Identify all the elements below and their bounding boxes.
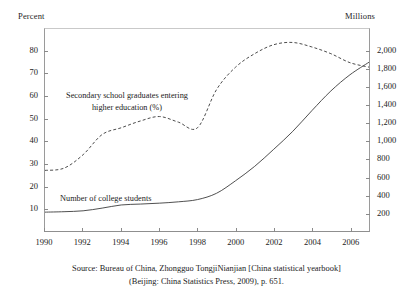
left-tick-label-20: 20 — [8, 181, 38, 191]
caption-line-1: Source: Bureau of China, Zhongguo Tongji… — [0, 262, 413, 275]
left-tick-label-70: 70 — [8, 67, 38, 77]
annotation-solid-series: Number of college students — [60, 193, 151, 205]
right-tick-mark-1200 — [366, 123, 370, 124]
right-axis-title: Millions — [345, 11, 375, 21]
right-tick-label-1800: 1,800 — [377, 63, 413, 73]
x-tick-mark-1994 — [121, 228, 122, 232]
right-tick-mark-800 — [366, 159, 370, 160]
right-tick-mark-1400 — [366, 105, 370, 106]
left-tick-mark-70 — [44, 73, 48, 74]
x-tick-label-1990: 1990 — [24, 237, 64, 247]
left-tick-mark-80 — [44, 51, 48, 52]
left-tick-mark-40 — [44, 141, 48, 142]
right-tick-mark-400 — [366, 196, 370, 197]
right-tick-mark-1800 — [366, 69, 370, 70]
right-tick-label-2000: 2,000 — [377, 45, 413, 55]
right-tick-label-600: 600 — [377, 172, 413, 182]
left-tick-label-80: 80 — [8, 45, 38, 55]
x-tick-mark-2002 — [274, 228, 275, 232]
x-tick-label-1998: 1998 — [177, 237, 217, 247]
left-tick-mark-10 — [44, 209, 48, 210]
right-tick-label-200: 200 — [377, 208, 413, 218]
caption-line-2: (Beijing: China Statistics Press, 2009),… — [0, 275, 413, 288]
x-tick-label-1992: 1992 — [62, 237, 102, 247]
right-tick-label-400: 400 — [377, 190, 413, 200]
figure-container: Percent Millions Secondary school gradua… — [0, 0, 413, 303]
left-tick-mark-50 — [44, 119, 48, 120]
right-tick-label-1200: 1,200 — [377, 117, 413, 127]
left-tick-label-40: 40 — [8, 135, 38, 145]
x-tick-mark-1996 — [159, 228, 160, 232]
annotation-dashed-series: Secondary school graduates entering high… — [47, 90, 207, 113]
left-tick-label-30: 30 — [8, 158, 38, 168]
annotation-dashed-line2: higher education (%) — [47, 102, 207, 114]
x-tick-mark-2006 — [351, 228, 352, 232]
annotation-dashed-line1: Secondary school graduates entering — [47, 90, 207, 102]
right-tick-mark-200 — [366, 214, 370, 215]
x-tick-mark-1990 — [44, 228, 45, 232]
right-tick-label-1400: 1,400 — [377, 99, 413, 109]
left-tick-label-50: 50 — [8, 113, 38, 123]
figure-caption: Source: Bureau of China, Zhongguo Tongji… — [0, 262, 413, 288]
right-tick-label-800: 800 — [377, 153, 413, 163]
x-tick-label-2002: 2002 — [254, 237, 294, 247]
x-tick-mark-2000 — [236, 228, 237, 232]
right-tick-mark-1600 — [366, 87, 370, 88]
right-tick-mark-2000 — [366, 51, 370, 52]
x-tick-label-2004: 2004 — [292, 237, 332, 247]
left-tick-mark-60 — [44, 96, 48, 97]
x-tick-label-2006: 2006 — [331, 237, 371, 247]
x-tick-label-1994: 1994 — [101, 237, 141, 247]
series-solid-path — [45, 62, 369, 212]
annotation-solid-line1: Number of college students — [60, 193, 151, 205]
left-tick-label-10: 10 — [8, 203, 38, 213]
x-tick-mark-1992 — [82, 228, 83, 232]
x-tick-mark-2004 — [312, 228, 313, 232]
right-tick-mark-1000 — [366, 141, 370, 142]
x-tick-label-1996: 1996 — [139, 237, 179, 247]
right-tick-label-1000: 1,000 — [377, 135, 413, 145]
x-tick-mark-1998 — [197, 228, 198, 232]
left-tick-mark-20 — [44, 187, 48, 188]
right-tick-label-1600: 1,600 — [377, 81, 413, 91]
left-tick-label-60: 60 — [8, 90, 38, 100]
left-tick-mark-30 — [44, 164, 48, 165]
left-axis-title: Percent — [18, 11, 45, 21]
right-tick-mark-600 — [366, 178, 370, 179]
x-tick-label-2000: 2000 — [216, 237, 256, 247]
